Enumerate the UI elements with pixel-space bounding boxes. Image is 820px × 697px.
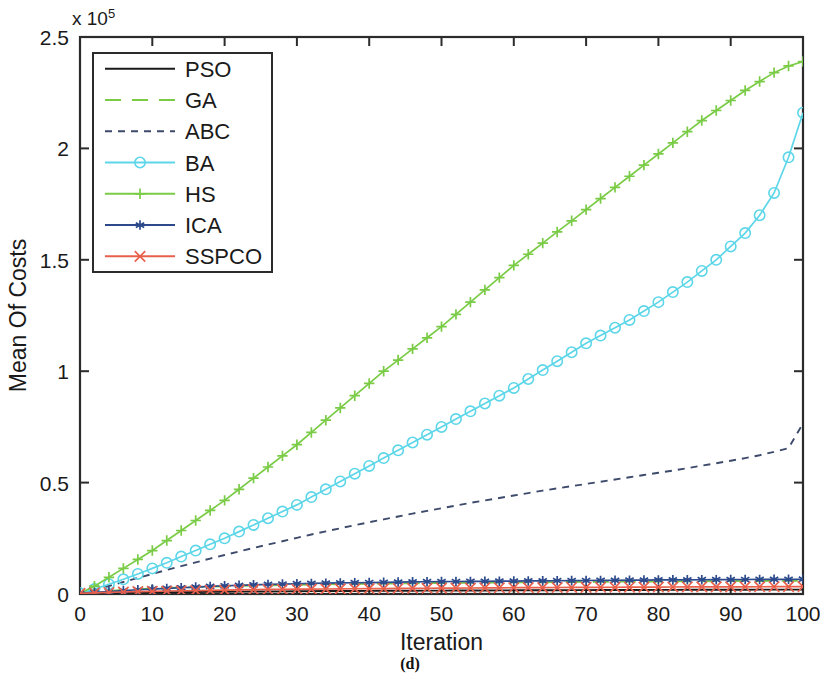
x-tick-label: 0 [74, 602, 86, 625]
x-tick-label: 90 [719, 602, 742, 625]
y-axis-title: Mean Of Costs [5, 239, 31, 392]
x-tick-label: 10 [141, 602, 164, 625]
legend-label-ba: BA [185, 151, 215, 176]
legend-label-hs: HS [185, 182, 216, 207]
y-tick-label: 0 [57, 583, 69, 606]
figure-container: 010203040506070809010000.511.522.5x 105I… [0, 0, 820, 697]
y-tick-label: 1 [57, 360, 69, 383]
legend-label-abc: ABC [185, 119, 230, 144]
x-axis-title: Iteration [400, 629, 483, 655]
legend-label-ga: GA [185, 88, 217, 113]
y-tick-label: 0.5 [40, 472, 69, 495]
mean-of-costs-line-chart: 010203040506070809010000.511.522.5x 105I… [0, 0, 820, 660]
x-tick-label: 40 [358, 602, 381, 625]
figure-caption: (d) [0, 655, 820, 673]
x-tick-label: 70 [574, 602, 597, 625]
x-tick-label: 30 [285, 602, 308, 625]
legend-label-sspco: SSPCO [185, 244, 262, 269]
legend-label-pso: PSO [185, 57, 231, 82]
y-tick-label: 2 [57, 137, 69, 160]
x-tick-label: 80 [647, 602, 670, 625]
x-tick-label: 20 [213, 602, 236, 625]
y-tick-label: 2.5 [40, 26, 69, 49]
y-tick-label: 1.5 [40, 249, 69, 272]
x-tick-label: 100 [785, 602, 820, 625]
legend-label-ica: ICA [185, 213, 222, 238]
y-axis-exponent-label: x 105 [72, 6, 115, 30]
x-tick-label: 60 [502, 602, 525, 625]
x-tick-label: 50 [430, 602, 453, 625]
